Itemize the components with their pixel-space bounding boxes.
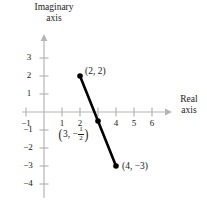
y-tick-label-neg1: −1: [20, 125, 36, 134]
real-axis-title-line2: axis: [172, 105, 206, 116]
complex-plane-figure: Imaginary axis Real axis −1 1 2 4 5 6 3 …: [0, 0, 207, 209]
x-tick-label-4: 4: [108, 119, 124, 128]
point-label-open-paren: (: [59, 129, 63, 139]
data-point-2-2: [77, 73, 83, 79]
x-tick-label-5: 5: [126, 119, 142, 128]
point-label-4-neg3: (4, −3): [122, 161, 148, 171]
point-label-close-paren: ): [85, 129, 89, 139]
imaginary-axis-title-line1: Imaginary: [18, 2, 90, 13]
x-axis-arrowhead: [165, 108, 172, 115]
y-tick-label-neg2: −2: [20, 143, 36, 152]
imaginary-axis-title-line2: axis: [18, 13, 90, 24]
point-label-fraction: 12: [78, 126, 84, 142]
y-tick-label-1: 1: [22, 89, 36, 98]
y-tick-label-2: 2: [22, 71, 36, 80]
x-tick-label-6: 6: [144, 119, 160, 128]
point-label-minus-sign: −: [73, 129, 78, 139]
y-tick-label-neg4: −4: [20, 179, 36, 188]
y-tick-label-neg3: −3: [20, 161, 36, 170]
point-label-2-2: (2, 2): [85, 66, 106, 76]
data-point-3-neg-half: [95, 118, 101, 124]
real-axis-title-line1: Real: [172, 94, 206, 105]
y-axis-arrowhead: [41, 34, 48, 41]
data-point-4-neg3: [113, 163, 119, 169]
fraction-denominator: 2: [78, 135, 84, 143]
point-label-real-part: 3,: [63, 129, 70, 139]
imaginary-axis-title: Imaginary axis: [18, 2, 90, 23]
y-tick-label-3: 3: [22, 53, 36, 62]
point-label-3-neg-half: (3, −12): [58, 126, 89, 142]
real-axis-title: Real axis: [172, 94, 206, 115]
